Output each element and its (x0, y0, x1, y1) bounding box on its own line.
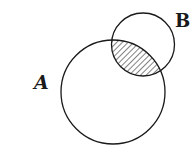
venn-diagram: A B (0, 0, 196, 165)
label-a: A (32, 71, 49, 93)
label-b: B (175, 10, 190, 31)
